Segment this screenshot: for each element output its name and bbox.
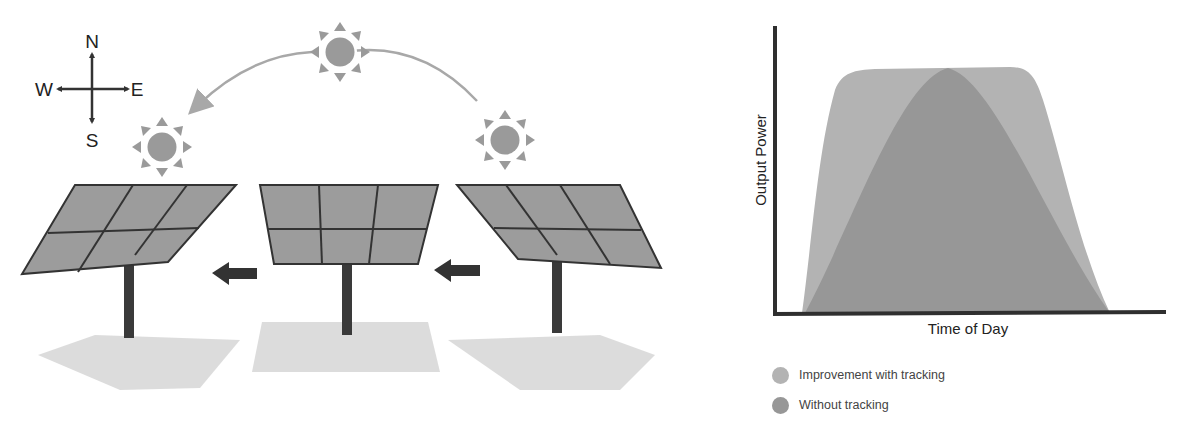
legend-item-without: Without tracking	[772, 390, 945, 420]
rotation-arrow-left-icon	[434, 259, 480, 282]
rotation-arrow-left-icon	[212, 262, 257, 285]
legend-swatch-dark-icon	[772, 397, 789, 414]
sun-path-arc-right	[345, 50, 477, 101]
x-axis	[773, 312, 1166, 314]
y-axis-label: Output Power	[752, 114, 769, 206]
compass-west-label: W	[35, 79, 53, 100]
ground-shadow-west	[38, 335, 240, 390]
chart-legend: Improvement with tracking Without tracki…	[772, 360, 945, 420]
legend-label: Improvement with tracking	[799, 368, 945, 382]
sun-path-arc-left	[197, 52, 312, 106]
sun-east-icon	[475, 110, 535, 170]
output-power-chart: Time of Day Output Power	[752, 26, 1166, 337]
compass: N S W E	[35, 31, 143, 151]
legend-item-improvement: Improvement with tracking	[772, 360, 945, 390]
sun-noon-icon	[310, 22, 370, 82]
legend-label: Without tracking	[799, 398, 889, 412]
ground-shadow-east	[448, 335, 655, 390]
compass-south-label: S	[86, 130, 99, 151]
x-axis-label: Time of Day	[928, 320, 1009, 337]
solar-panel-noon	[260, 185, 438, 335]
sun-west-icon	[132, 117, 192, 177]
compass-east-label: E	[131, 79, 144, 100]
solar-panel-east	[457, 185, 661, 333]
solar-panel-west	[22, 185, 236, 338]
compass-north-label: N	[85, 31, 99, 52]
legend-swatch-light-icon	[772, 367, 789, 384]
